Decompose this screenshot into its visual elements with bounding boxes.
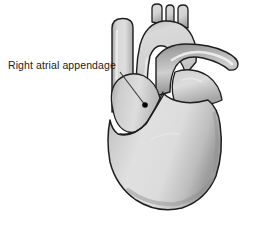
left-atrial-appendage <box>172 70 222 106</box>
annotation-label: Right atrial appendage <box>8 59 116 72</box>
annotation-marker-dot <box>142 102 148 108</box>
heart-anatomy-figure: Right atrial appendage <box>0 0 253 228</box>
heart-illustration <box>0 0 253 228</box>
